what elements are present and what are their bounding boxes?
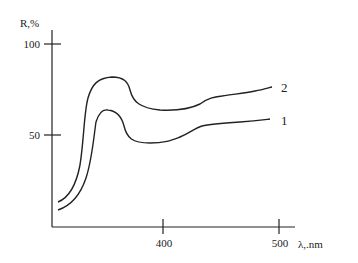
x-tick-label-400: 400 (156, 237, 173, 249)
x-tick-label-500: 500 (272, 237, 289, 249)
y-tick-label-100: 100 (24, 38, 41, 50)
curve-label-2: 2 (281, 80, 288, 95)
curve-1 (58, 110, 270, 210)
y-axis-label: R,% (20, 17, 39, 29)
reflectance-chart: R,% 100 50 400 500 λ,.nm 2 1 (0, 0, 358, 263)
x-axis-label: λ,.nm (298, 238, 323, 250)
curve-2 (58, 77, 272, 202)
curve-label-1: 1 (281, 113, 288, 128)
y-tick-label-50: 50 (29, 129, 41, 141)
